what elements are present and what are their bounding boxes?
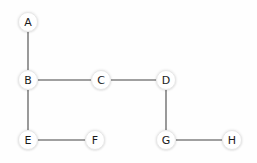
graph-node-label-f: F <box>92 135 98 146</box>
graph-node-e[interactable]: E <box>18 130 38 150</box>
graph-edges-layer <box>0 0 257 163</box>
graph-node-label-a: A <box>24 17 32 28</box>
graph-node-label-e: E <box>25 135 32 146</box>
graph-node-b[interactable]: B <box>18 70 38 90</box>
graph-node-c[interactable]: C <box>91 70 111 90</box>
graph-node-d[interactable]: D <box>156 70 176 90</box>
graph-node-g[interactable]: G <box>156 130 176 150</box>
graph-node-label-g: G <box>162 135 171 146</box>
graph-node-label-d: D <box>162 75 170 86</box>
graph-node-label-b: B <box>24 75 32 86</box>
graph-node-f[interactable]: F <box>85 130 105 150</box>
graph-node-label-c: C <box>97 75 105 86</box>
graph-node-h[interactable]: H <box>222 130 242 150</box>
graph-canvas: ABCDEFGH <box>0 0 257 163</box>
graph-node-a[interactable]: A <box>18 12 38 32</box>
graph-node-label-h: H <box>228 135 236 146</box>
